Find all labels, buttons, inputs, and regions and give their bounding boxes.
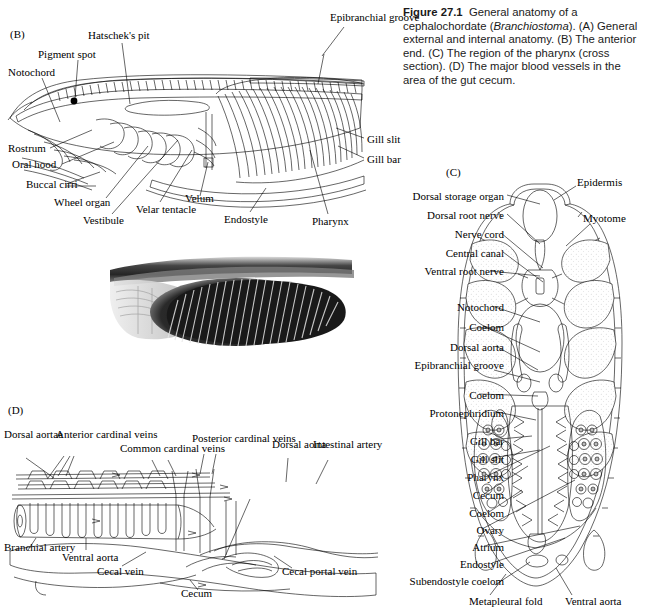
panel-d-leaders: [0, 420, 380, 614]
panel-b-leaders: [0, 0, 410, 250]
panel-d-letter: (D): [8, 404, 23, 416]
figure-genus: Branchiostoma: [493, 20, 568, 32]
panel-photograph: [108, 248, 358, 368]
figure-title-tail: ).: [569, 20, 576, 32]
figure-caption: Figure 27.1 General anatomy of a cephalo…: [403, 6, 641, 88]
panel-c-leaders: [380, 170, 645, 610]
